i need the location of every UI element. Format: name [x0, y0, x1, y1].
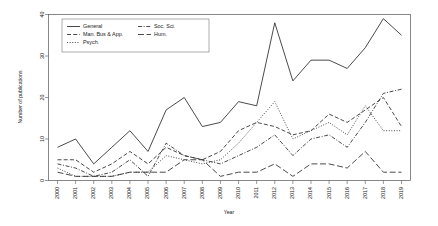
- legend-label-hum: Hum.: [154, 31, 167, 37]
- legend-label-general: General: [83, 23, 102, 29]
- x-tick-label: 2001: [72, 187, 78, 199]
- x-tick-label: 2016: [344, 187, 350, 199]
- publications-line-chart: 010203040 200020012002200320042005200620…: [0, 0, 438, 226]
- legend-label-man-bus-app: Man. Bus & App.: [83, 31, 123, 37]
- y-tick-label: 10: [39, 136, 45, 142]
- y-tick-label: 40: [39, 12, 45, 18]
- y-axis-title: Number of publications: [17, 70, 23, 123]
- x-tick-label: 2005: [144, 187, 150, 199]
- x-tick-label: 2017: [362, 187, 368, 199]
- y-tick-label: 20: [39, 95, 45, 101]
- x-axis-title: Year: [224, 209, 235, 215]
- x-tick-label: 2004: [126, 187, 132, 199]
- y-tick-label: 30: [39, 53, 45, 59]
- x-tick-label: 2000: [54, 187, 60, 199]
- x-tick-label: 2006: [163, 187, 169, 199]
- y-tick-label: 0: [39, 179, 45, 182]
- x-tick-label: 2014: [307, 187, 313, 199]
- legend-label-psych: Psych.: [83, 39, 99, 45]
- x-tick-label: 2008: [199, 187, 205, 199]
- x-tick-label: 2011: [253, 187, 259, 199]
- x-tick-label: 2013: [289, 187, 295, 199]
- x-tick-label: 2015: [326, 187, 332, 199]
- x-tick-label: 2012: [271, 187, 277, 199]
- x-tick-label: 2003: [108, 187, 114, 199]
- chart-legend: GeneralMan. Bus & App.Psych.Soc. Sci.Hum…: [62, 19, 209, 52]
- legend-label-soc-sci: Soc. Sci.: [154, 23, 175, 29]
- x-tick-label: 2010: [235, 187, 241, 199]
- x-tick-label: 2009: [217, 187, 223, 199]
- x-tick-label: 2019: [398, 187, 404, 199]
- x-tick-label: 2018: [380, 187, 386, 199]
- chart-canvas: 010203040 200020012002200320042005200620…: [0, 0, 438, 226]
- x-tick-label: 2002: [90, 187, 96, 199]
- x-tick-label: 2007: [181, 187, 187, 199]
